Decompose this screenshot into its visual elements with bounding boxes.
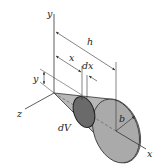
z-axis-label: z xyxy=(16,108,23,119)
cone-diagram: y z x h x dx y dV b xyxy=(0,0,160,166)
dx-arrow xyxy=(89,76,97,81)
h-label: h xyxy=(87,36,93,47)
z-axis xyxy=(25,93,54,109)
dv-label: dV xyxy=(58,122,72,133)
b-label: b xyxy=(119,113,125,124)
y-dim-ext-bottom xyxy=(40,82,54,93)
diagram-svg: y z x h x dx y dV b xyxy=(0,0,160,166)
y-axis-label: y xyxy=(46,8,53,19)
dx-label: dx xyxy=(82,60,94,71)
x-dist-label: x xyxy=(69,52,75,63)
y-dim-ext-top xyxy=(40,69,82,95)
x-axis-label: x xyxy=(147,148,153,159)
y-dim-label: y xyxy=(32,73,39,84)
